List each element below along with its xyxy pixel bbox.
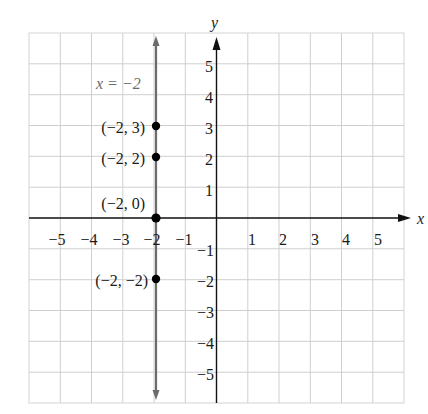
- y-tick-labels: 5 4 3 2 1 −1 −2 −3 −4 −5: [197, 58, 214, 383]
- svg-text:3: 3: [205, 120, 213, 137]
- svg-text:1: 1: [248, 231, 256, 248]
- svg-text:4: 4: [205, 89, 213, 106]
- point-labels: (−2, 3) (−2, 2) (−2, 0) (−2, −2): [95, 119, 148, 290]
- svg-text:−4: −4: [80, 231, 97, 248]
- svg-text:−4: −4: [197, 335, 214, 352]
- svg-text:(−2, 0): (−2, 0): [101, 195, 145, 213]
- svg-text:4: 4: [342, 231, 350, 248]
- svg-text:5: 5: [374, 231, 382, 248]
- point-neg2-3: [152, 122, 160, 130]
- svg-text:2: 2: [279, 231, 287, 248]
- point-neg2-neg2: [152, 275, 160, 283]
- coordinate-graph: x y x = −2 −5 −4 −3 −2 −1 1 2 3 4 5 5 4 …: [0, 0, 428, 414]
- svg-text:3: 3: [311, 231, 319, 248]
- y-axis-arrow-icon: [213, 37, 221, 50]
- y-axis-label: y: [209, 14, 219, 32]
- svg-text:2: 2: [205, 151, 213, 168]
- point-neg2-0: [151, 213, 160, 222]
- x-axis: [29, 214, 411, 222]
- svg-text:(−2, −2): (−2, −2): [95, 272, 148, 290]
- svg-text:(−2, 3): (−2, 3): [101, 119, 145, 137]
- svg-text:−2: −2: [143, 231, 160, 248]
- x-axis-label: x: [416, 210, 424, 227]
- svg-text:5: 5: [205, 58, 213, 75]
- svg-text:1: 1: [205, 182, 213, 199]
- point-neg2-2: [152, 153, 160, 161]
- x-tick-labels: −5 −4 −3 −2 −1 1 2 3 4 5: [48, 231, 382, 248]
- line-label: x = −2: [95, 75, 141, 92]
- svg-text:−1: −1: [197, 242, 214, 259]
- svg-text:−5: −5: [197, 366, 214, 383]
- svg-text:(−2, 2): (−2, 2): [101, 150, 145, 168]
- svg-text:−2: −2: [197, 273, 214, 290]
- svg-text:−1: −1: [175, 231, 192, 248]
- svg-text:−3: −3: [197, 304, 214, 321]
- svg-text:−3: −3: [112, 231, 129, 248]
- svg-text:−5: −5: [48, 231, 65, 248]
